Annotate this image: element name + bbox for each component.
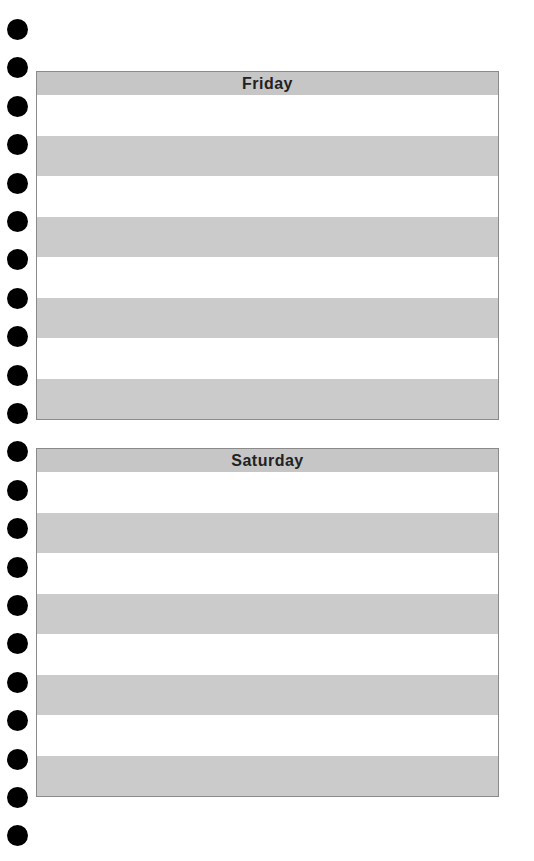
punch-hole-icon xyxy=(7,134,28,155)
punch-hole-icon xyxy=(7,557,28,578)
time-row[interactable] xyxy=(37,176,498,217)
punch-hole-icon xyxy=(7,57,28,78)
time-row[interactable] xyxy=(37,217,498,258)
time-row[interactable] xyxy=(37,553,498,594)
punch-hole-icon xyxy=(7,710,28,731)
punch-hole-icon xyxy=(7,96,28,117)
punch-hole-icon xyxy=(7,749,28,770)
day-header-friday: Friday xyxy=(37,72,498,95)
day-header-saturday: Saturday xyxy=(37,449,498,472)
punch-hole-icon xyxy=(7,365,28,386)
punch-hole-icon xyxy=(7,173,28,194)
punch-hole-icon xyxy=(7,326,28,347)
punch-hole-icon xyxy=(7,19,28,40)
time-row[interactable] xyxy=(37,634,498,675)
time-row[interactable] xyxy=(37,95,498,136)
punch-hole-icon xyxy=(7,249,28,270)
day-box-friday: Friday xyxy=(36,71,499,420)
time-row[interactable] xyxy=(37,756,498,797)
punch-hole-icon xyxy=(7,211,28,232)
punch-hole-icon xyxy=(7,787,28,808)
punch-hole-icon xyxy=(7,825,28,846)
time-row[interactable] xyxy=(37,675,498,716)
time-row[interactable] xyxy=(37,379,498,420)
time-row[interactable] xyxy=(37,338,498,379)
punch-hole-icon xyxy=(7,441,28,462)
time-row[interactable] xyxy=(37,715,498,756)
punch-hole-icon xyxy=(7,480,28,501)
time-row[interactable] xyxy=(37,513,498,554)
punch-hole-icon xyxy=(7,633,28,654)
time-row[interactable] xyxy=(37,472,498,513)
punch-hole-icon xyxy=(7,672,28,693)
time-row[interactable] xyxy=(37,257,498,298)
day-box-saturday: Saturday xyxy=(36,448,499,797)
time-row[interactable] xyxy=(37,136,498,177)
punch-hole-icon xyxy=(7,518,28,539)
punch-hole-icon xyxy=(7,288,28,309)
punch-hole-icon xyxy=(7,595,28,616)
punch-hole-icon xyxy=(7,403,28,424)
time-row[interactable] xyxy=(37,594,498,635)
time-row[interactable] xyxy=(37,298,498,339)
